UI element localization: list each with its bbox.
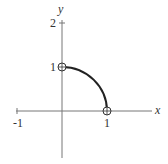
- marker-0-1: [58, 63, 66, 71]
- x-tick-label-neg1: -1: [13, 117, 23, 129]
- plot-canvas: [0, 0, 168, 164]
- y-tick-label-2: 2: [50, 17, 56, 29]
- y-axis-label: y: [58, 3, 63, 15]
- x-tick-label-1: 1: [104, 117, 110, 129]
- y-tick-label-1: 1: [50, 61, 56, 73]
- x-axis-label: x: [155, 104, 160, 116]
- quarter-circle-arc: [62, 67, 107, 111]
- marker-1-0: [103, 107, 111, 115]
